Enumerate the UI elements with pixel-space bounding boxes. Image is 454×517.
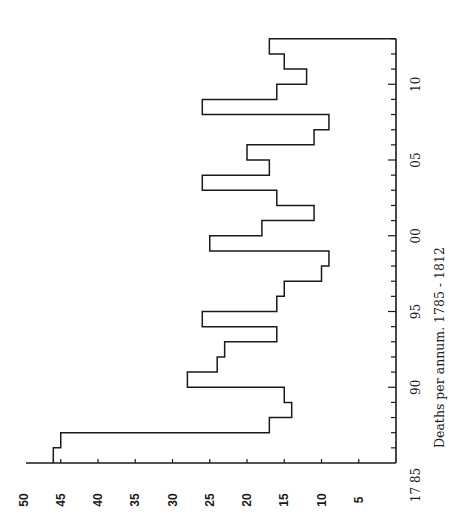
value-tick-label: 25 — [203, 493, 217, 507]
year-bar-1806 — [314, 130, 396, 145]
step-series — [53, 39, 396, 463]
year-bar-1789 — [284, 387, 396, 402]
year-bar-1798 — [329, 251, 396, 266]
value-tick-label: 35 — [128, 493, 142, 507]
value-tick-label: 10 — [315, 493, 329, 507]
year-bar-1804 — [269, 160, 396, 175]
value-tick-label: 20 — [240, 493, 254, 507]
value-tick-label: 45 — [54, 493, 68, 507]
year-bar-1795 — [277, 296, 396, 311]
year-tick-label: 00 — [409, 228, 423, 243]
year-bar-1812 — [269, 39, 396, 54]
year-bar-1793 — [277, 327, 396, 342]
year-bar-1785 — [53, 448, 396, 463]
year-bar-1786 — [61, 433, 396, 448]
year-bar-1805 — [247, 145, 396, 160]
year-bar-1800 — [262, 221, 396, 236]
value-tick-labels: 5101520253035404550 — [17, 493, 366, 507]
value-tick-label: 50 — [17, 493, 31, 507]
year-bar-1787 — [269, 418, 396, 433]
year-tick-label: 17 85 — [409, 468, 423, 502]
year-tick-label: 95 — [409, 304, 423, 319]
year-tick-label: 90 — [409, 380, 423, 395]
year-bar-1811 — [284, 54, 396, 69]
year-bar-1808 — [202, 99, 396, 114]
value-tick-label: 40 — [91, 493, 105, 507]
value-tick-label: 15 — [277, 493, 291, 507]
year-bar-1792 — [225, 342, 396, 357]
year-bar-1809 — [277, 84, 396, 99]
year-tick-label: 10 — [409, 77, 423, 92]
value-tick-label: 5 — [352, 496, 366, 503]
value-tick-label: 30 — [166, 493, 180, 507]
year-bar-1807 — [329, 115, 396, 130]
deaths-per-annum-chart: 5101520253035404550 17 859095000510 Deat… — [0, 0, 454, 517]
year-bar-1797 — [322, 266, 397, 281]
year-tick-labels: 17 859095000510 — [409, 77, 423, 503]
year-bar-1810 — [307, 69, 396, 84]
year-bar-1796 — [284, 281, 396, 296]
year-bar-1791 — [217, 357, 396, 372]
year-bar-1801 — [314, 205, 396, 220]
year-bar-1799 — [210, 236, 396, 251]
year-bar-1790 — [187, 372, 396, 387]
year-bar-1803 — [202, 175, 396, 190]
chart-title: Deaths per annum. 1785 - 1812 — [432, 247, 447, 448]
year-bar-1802 — [277, 190, 396, 205]
year-bar-1794 — [202, 312, 396, 327]
year-tick-label: 05 — [409, 152, 423, 167]
year-bar-1788 — [292, 402, 396, 417]
